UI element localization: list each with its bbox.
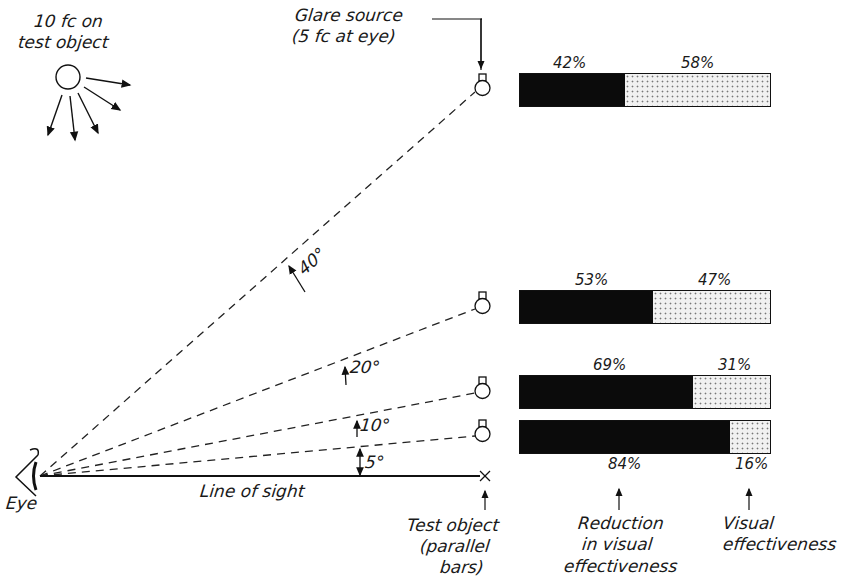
bar-segment-visual	[625, 74, 770, 106]
bar2-dark-pct: 69%	[593, 356, 626, 374]
bar-segment-reduction	[520, 74, 625, 106]
bar3-light-pct: 16%	[735, 455, 768, 473]
glare-source-label-1: Glare source	[294, 6, 404, 25]
bar3-dark-pct: 84%	[608, 455, 641, 473]
angle-10-label: 10°	[359, 416, 391, 435]
angle-5-label: 5°	[364, 453, 385, 472]
bar1-light-pct: 47%	[698, 271, 731, 289]
bar-segment-visual	[693, 376, 771, 408]
bar-segment-reduction	[520, 421, 730, 453]
test-object-icon	[480, 471, 490, 481]
reduction-label-2: in visual	[581, 535, 653, 554]
angle-20-label: 20°	[349, 358, 381, 377]
visual-label-2: effectiveness	[722, 535, 837, 554]
reduction-label-1: Reduction	[577, 514, 665, 533]
eye-label: Eye	[5, 494, 38, 513]
line-of-sight-label: Line of sight	[199, 482, 305, 501]
light-source-label-1: 10 fc on	[33, 12, 104, 31]
visual-label-1: Visual	[722, 514, 775, 533]
bar-10deg	[519, 375, 771, 409]
glare-bulb-icon	[475, 74, 490, 442]
light-source-label-2: test object	[17, 33, 109, 52]
bar-segment-visual	[653, 291, 771, 323]
reduction-label-3: effectiveness	[563, 557, 678, 576]
bar0-light-pct: 58%	[681, 54, 714, 72]
bar-segment-visual	[730, 421, 770, 453]
bar-20deg	[519, 290, 771, 324]
light-source-icon	[48, 65, 130, 140]
eye-icon	[16, 449, 38, 496]
bar0-dark-pct: 42%	[553, 54, 586, 72]
bar-segment-reduction	[520, 291, 653, 323]
bar-40deg	[519, 73, 771, 107]
bar2-light-pct: 31%	[718, 356, 751, 374]
test-object-label-2: (parallel	[419, 537, 491, 556]
test-object-label-1: Test object	[406, 516, 500, 535]
bar1-dark-pct: 53%	[575, 271, 608, 289]
test-object-label-3: bars)	[439, 558, 485, 577]
bar-5deg	[519, 420, 771, 454]
bar-segment-reduction	[520, 376, 693, 408]
glare-source-label-2: (5 fc at eye)	[291, 27, 397, 46]
